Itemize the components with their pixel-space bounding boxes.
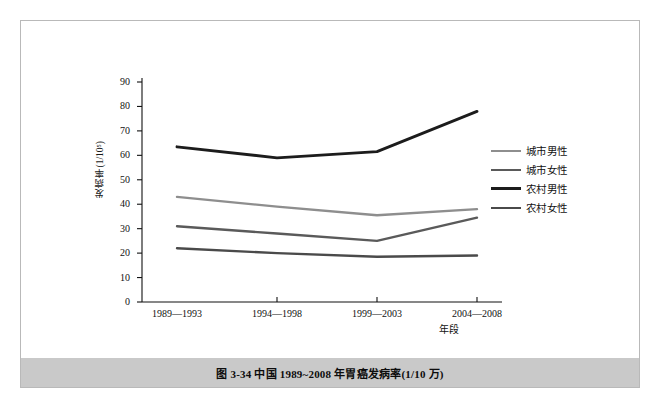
figure-page: 发病率(1/10⁵) 0102030405060708090 1989—1993… [0, 0, 660, 408]
y-tick-label: 40 [108, 199, 130, 209]
legend-label: 城市男性 [526, 143, 567, 158]
figure-caption-band: 图 3-34 中国 1989~2008 年胃癌发病率(1/10 万) [21, 358, 639, 387]
legend-label: 农村男性 [526, 181, 567, 196]
y-tick-label: 30 [108, 224, 130, 234]
y-tick-label: 90 [108, 77, 130, 87]
y-tick-label: 50 [108, 175, 130, 185]
x-tick-label: 1999—2003 [332, 308, 422, 319]
legend-swatch-icon [491, 187, 521, 190]
x-tick-label: 1994—1998 [232, 308, 322, 319]
x-axis-title-text: 年段 [439, 324, 459, 335]
figure-frame: 发病率(1/10⁵) 0102030405060708090 1989—1993… [20, 20, 640, 388]
x-tick-label: 2004—2008 [432, 308, 522, 319]
legend-swatch-icon [491, 150, 521, 152]
legend-swatch-icon [491, 169, 521, 171]
y-tick-label: 0 [108, 297, 130, 307]
y-tick-label: 70 [108, 126, 130, 136]
x-tick-label: 1989—1993 [132, 308, 222, 319]
y-tick-label: 10 [108, 273, 130, 283]
legend-label: 农村女性 [526, 200, 567, 215]
legend-swatch-icon [491, 207, 521, 209]
legend-item-3: 农村男性 [491, 179, 636, 198]
legend-item-2: 城市女性 [491, 160, 636, 179]
y-tick-label: 60 [108, 150, 130, 160]
y-tick-label: 80 [108, 101, 130, 111]
legend-label: 城市女性 [526, 162, 567, 177]
chart-plot-area: 发病率(1/10⁵) 0102030405060708090 1989—1993… [21, 21, 641, 341]
legend-item-1: 城市男性 [491, 141, 636, 160]
figure-caption: 图 3-34 中国 1989~2008 年胃癌发病率(1/10 万) [216, 365, 443, 381]
y-tick-label: 20 [108, 248, 130, 258]
x-axis-title: 年段 [419, 321, 479, 336]
chart-legend: 城市男性城市女性农村男性农村女性 [491, 141, 636, 217]
legend-item-4: 农村女性 [491, 198, 636, 217]
